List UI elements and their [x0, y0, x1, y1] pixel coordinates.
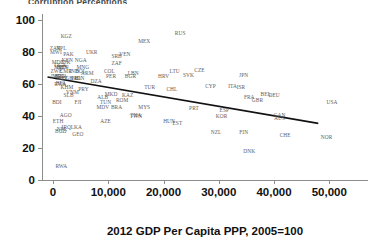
data-point-label: GEO [72, 131, 83, 137]
data-point-label: TWN [130, 113, 142, 119]
data-point-label: SRB [111, 53, 121, 59]
data-point-label: LKA [71, 124, 82, 130]
data-point-label: FIN [239, 129, 248, 135]
y-tick-label: 100 [16, 14, 35, 26]
data-point-label: TUR [144, 84, 155, 90]
y-tick-label: 80 [22, 46, 35, 58]
data-point-label: USA [327, 99, 338, 105]
x-axis-line [42, 180, 368, 181]
x-tick-mark [53, 180, 54, 184]
y-tick-label: 20 [22, 142, 35, 154]
data-point-label: NOR [321, 134, 333, 140]
data-point-label: CZE [194, 67, 204, 73]
data-point-label: BDI [52, 99, 61, 105]
data-point-label: SLB [63, 92, 73, 98]
x-tick-label: 50,000 [312, 186, 347, 198]
data-point-label: DZA [91, 78, 102, 84]
data-point-label: DEU [268, 92, 279, 98]
data-point-label: RUS [175, 30, 186, 36]
data-point-label: MYS [138, 104, 150, 110]
data-point-label: ESP [220, 107, 229, 113]
data-point-label: NZL [211, 129, 222, 135]
data-point-label: PER [106, 73, 116, 79]
plot-area: 020406080100 010,00020,00030,00040,00050… [42, 14, 368, 180]
y-axis-line [42, 14, 43, 180]
data-point-label: ROM [116, 97, 128, 103]
data-point-label: BGD [55, 128, 67, 134]
data-point-label: BRA [111, 104, 122, 110]
data-point-label: PRY [78, 86, 88, 92]
x-tick-label: 40,000 [256, 186, 291, 198]
x-tick-label: 20,000 [146, 186, 181, 198]
data-point-label: KOR [216, 113, 228, 119]
data-point-label: BGR [125, 73, 136, 79]
y-tick-mark [38, 20, 42, 21]
y-tick-label: 0 [29, 174, 35, 186]
data-point-label: PRT [189, 105, 199, 111]
y-tick-label: 60 [22, 78, 35, 90]
y-tick-mark [38, 180, 42, 181]
y-tick-label: 40 [22, 110, 35, 122]
data-point-label: GBR [252, 97, 263, 103]
y-tick-mark [38, 116, 42, 117]
data-point-label: SVK [183, 72, 194, 78]
x-axis-title: 2012 GDP Per Capita PPP, 2005=100 [42, 225, 368, 237]
x-tick-label: 10,000 [91, 186, 126, 198]
clipped-header-text: Corruption Perceptions [28, 0, 127, 4]
data-point-label: MEX [138, 38, 150, 44]
x-tick-mark [219, 180, 220, 184]
data-point-label: CYP [205, 83, 216, 89]
data-point-label: CHE [280, 132, 291, 138]
data-point-label: KGZ [61, 33, 72, 39]
y-tick-mark [38, 52, 42, 53]
data-point-label: ISR [237, 84, 246, 90]
data-point-label: AZE [100, 118, 111, 124]
x-tick-mark [108, 180, 109, 184]
data-point-label: LTU [170, 68, 180, 74]
data-point-label: DNK [243, 148, 255, 154]
data-point-label: NGA [75, 57, 87, 63]
data-point-label: ZAF [111, 60, 121, 66]
data-point-label: ETH [53, 118, 64, 124]
y-tick-mark [38, 148, 42, 149]
data-point-label: PAK [63, 51, 73, 57]
x-tick-label: 0 [50, 186, 56, 198]
data-point-label: UKR [86, 49, 98, 55]
data-point-label: AGO [60, 112, 72, 118]
data-point-label: AUS [274, 115, 285, 121]
data-point-label: CHL [166, 86, 177, 92]
x-tick-mark [164, 180, 165, 184]
data-point-label: MDV [96, 104, 109, 110]
x-tick-mark [329, 180, 330, 184]
data-point-label: MWI [50, 49, 62, 55]
data-point-label: EST [172, 120, 182, 126]
x-tick-mark [274, 180, 275, 184]
x-tick-label: 30,000 [201, 186, 236, 198]
data-point-label: FJI [74, 99, 81, 105]
data-point-label: RWA [55, 163, 67, 169]
trend-line [42, 14, 368, 180]
data-point-label: IDN [75, 75, 85, 81]
data-point-label: JPN [239, 72, 248, 78]
data-point-label: HRV [158, 73, 169, 79]
scatter-chart: Corruption Perceptions 020406080100 010,… [0, 0, 380, 251]
y-tick-mark [38, 84, 42, 85]
